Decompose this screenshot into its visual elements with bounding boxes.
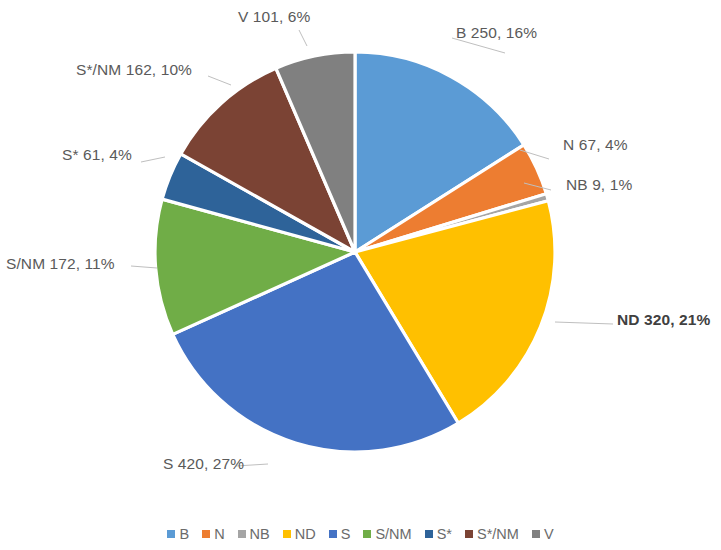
leader-line-sstar (141, 157, 165, 162)
data-label-v: V 101, 6% (238, 8, 310, 25)
legend-item-nd[interactable]: ND (283, 526, 316, 542)
pie-chart-graphic (0, 0, 721, 550)
pie-chart: B 250, 16% N 67, 4% NB 9, 1% ND 320, 21%… (0, 0, 721, 550)
legend-item-nb[interactable]: NB (238, 526, 270, 542)
data-label-s: S 420, 27% (163, 455, 244, 472)
legend-item-label: B (179, 526, 189, 542)
leader-line-snm (131, 266, 157, 268)
legend-item-label: S/NM (375, 526, 411, 542)
legend-item-label: S* (437, 526, 452, 542)
legend-swatch-icon (425, 530, 433, 538)
legend-item-label: S*/NM (477, 526, 519, 542)
legend-item-snm[interactable]: S*/NM (465, 526, 519, 542)
data-label-nb: NB 9, 1% (566, 176, 632, 193)
legend-item-v[interactable]: V (532, 526, 554, 542)
legend-item-label: ND (295, 526, 316, 542)
legend-item-b[interactable]: B (167, 526, 189, 542)
legend-item-label: S (341, 526, 351, 542)
data-label-n: N 67, 4% (563, 136, 628, 153)
leader-line-sstarnm (208, 76, 231, 85)
legend-swatch-icon (202, 530, 210, 538)
data-label-b: B 250, 16% (456, 24, 537, 41)
pie-slices (155, 52, 555, 452)
legend-item-snm[interactable]: S/NM (363, 526, 411, 542)
chart-legend: BNNBNDSS/NMS*S*/NMV (0, 526, 721, 542)
legend-swatch-icon (532, 530, 540, 538)
data-label-nd: ND 320, 21% (617, 311, 710, 328)
data-label-snm: S/NM 172, 11% (6, 255, 115, 272)
legend-swatch-icon (329, 530, 337, 538)
data-label-sstar: S* 61, 4% (62, 146, 132, 163)
legend-item-s[interactable]: S* (425, 526, 452, 542)
legend-swatch-icon (283, 530, 291, 538)
legend-swatch-icon (363, 530, 371, 538)
legend-item-s[interactable]: S (329, 526, 351, 542)
legend-item-n[interactable]: N (202, 526, 224, 542)
leader-line-nd (555, 322, 613, 324)
legend-item-label: NB (250, 526, 270, 542)
leader-line-v (299, 30, 307, 46)
legend-swatch-icon (167, 530, 175, 538)
legend-swatch-icon (465, 530, 473, 538)
legend-swatch-icon (238, 530, 246, 538)
data-label-sstarnm: S*/NM 162, 10% (76, 61, 192, 78)
legend-item-label: N (214, 526, 224, 542)
legend-item-label: V (544, 526, 554, 542)
